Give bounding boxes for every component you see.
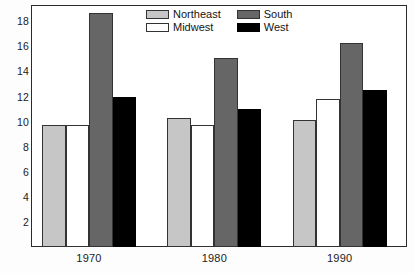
y-axis-tick-label: 2 [7,216,29,228]
bar-south-1970 [89,13,113,247]
y-axis-labels: 24681012141618 [3,5,29,247]
y-axis-tick-label: 18 [7,15,29,27]
chart-legend: NortheastSouthMidwestWest [146,9,292,33]
bar-midwest-1990 [316,99,340,247]
bar-west-1980 [238,109,262,247]
y-axis-tick-label: 14 [7,65,29,77]
legend-item-midwest: Midwest [146,22,221,33]
bar-northeast-1970 [42,125,66,247]
bar-south-1990 [340,43,364,247]
legend-swatch-south [237,10,260,19]
legend-label-midwest: Midwest [173,22,213,33]
legend-item-west: West [237,22,293,33]
bar-northeast-1990 [293,120,317,247]
bar-midwest-1980 [191,125,215,247]
legend-item-south: South [237,9,293,20]
y-axis-tick-label: 8 [7,141,29,153]
legend-swatch-northeast [146,10,169,19]
y-axis-tick-label: 10 [7,116,29,128]
y-axis-tick-label: 6 [7,166,29,178]
bar-chart: 24681012141618 197019801990 NortheastSou… [0,0,415,273]
legend-swatch-midwest [146,23,169,32]
bar-west-1990 [363,90,387,247]
bar-south-1980 [214,58,238,247]
legend-label-west: West [264,22,289,33]
legend-label-northeast: Northeast [173,9,221,20]
y-axis-tick-label: 4 [7,191,29,203]
x-axis-tick-label-1980: 1980 [202,252,227,264]
legend-label-south: South [264,9,293,20]
x-axis-tick-label-1990: 1990 [327,252,352,264]
x-axis-tick-label-1970: 1970 [76,252,101,264]
y-axis-tick-label: 16 [7,40,29,52]
plot-area [31,5,407,247]
bar-west-1970 [113,97,137,247]
bar-northeast-1980 [167,118,191,247]
bar-midwest-1970 [66,125,90,247]
legend-item-northeast: Northeast [146,9,221,20]
y-axis-tick-label: 12 [7,91,29,103]
legend-swatch-west [237,23,260,32]
